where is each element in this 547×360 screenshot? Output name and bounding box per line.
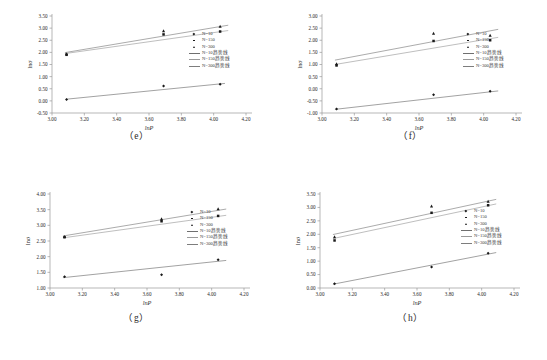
svg-text:lnσ: lnσ [296, 60, 303, 69]
legend-line-key [186, 237, 198, 238]
panel-caption-g: （g） [0, 310, 273, 324]
y-tick-label: 0.00 [309, 86, 318, 92]
data-point-square [430, 212, 433, 215]
y-tick-label: 3.00 [309, 13, 318, 19]
x-tick-label: 4.00 [479, 116, 488, 122]
y-tick-label: 3.50 [307, 191, 316, 197]
legend-marker-triangle-icon [193, 46, 195, 48]
legend-marker-key [186, 218, 198, 220]
plot-svg-h: 0.000.501.001.502.002.503.003.503.003.20… [274, 180, 547, 325]
y-tick-label: -1.00 [307, 110, 318, 116]
y-tick-label: 1.50 [307, 245, 316, 251]
legend-line-key [462, 66, 474, 67]
legend-line-key [460, 236, 472, 237]
y-tick-label: 1.50 [37, 269, 46, 275]
legend-item-label: N=300趋势线 [202, 62, 230, 71]
y-axis-label: lnσ [294, 236, 301, 245]
legend-e: N=10N=150N=300N=10趋势线N=150趋势线N=300趋势线 [188, 31, 230, 69]
chart-panel-e: -0.500.000.501.001.502.002.503.003.503.0… [0, 0, 273, 180]
x-tick-label: 3.20 [78, 291, 87, 297]
legend-marker-diamond-icon [465, 210, 467, 212]
y-tick-label: 2.00 [307, 231, 316, 237]
figure-sheet: -0.500.000.501.001.502.002.503.003.503.0… [0, 0, 547, 360]
legend-marker-key [462, 33, 474, 35]
y-tick-label: 0.50 [309, 74, 318, 80]
legend-marker-key [186, 224, 198, 226]
legend-line-swatch [463, 59, 474, 60]
plot-svg-e: -0.500.000.501.001.502.002.503.003.503.0… [0, 0, 273, 145]
legend-line-swatch [463, 53, 474, 54]
data-point-square [333, 239, 336, 242]
data-point-diamond [335, 108, 338, 111]
legend-marker-square-icon [193, 40, 195, 42]
data-point-triangle [430, 204, 433, 207]
y-tick-label: 2.50 [307, 218, 316, 224]
data-point-square [487, 204, 490, 207]
data-point-triangle [162, 29, 165, 32]
x-tick-label: 4.00 [207, 291, 216, 297]
data-point-diamond [333, 282, 336, 285]
legend-line-swatch [461, 243, 472, 244]
x-axis-label: lnP [143, 299, 152, 306]
y-tick-label: 4.00 [37, 191, 46, 197]
legend-marker-triangle-icon [191, 224, 193, 226]
x-tick-label: 4.20 [512, 116, 521, 122]
x-tick-label: 3.20 [350, 116, 359, 122]
y-axis-label: lnσ [26, 60, 33, 69]
y-tick-label: 2.00 [39, 49, 48, 55]
y-tick-label: 0.00 [307, 285, 316, 291]
panel-caption-e: （e） [0, 128, 273, 142]
legend-line-swatch [461, 236, 472, 237]
x-tick-label: 4.00 [477, 291, 486, 297]
x-tick-label: 3.80 [177, 116, 186, 122]
x-tick-label: 3.00 [48, 116, 57, 122]
legend-item: N=300趋势线 [462, 63, 504, 69]
y-tick-label: -0.50 [307, 98, 318, 104]
legend-line-key [460, 230, 472, 231]
legend-marker-square-icon [467, 40, 469, 42]
trendline [63, 260, 226, 277]
plot-area-e: -0.500.000.501.001.502.002.503.003.503.0… [0, 0, 273, 145]
data-point-triangle [432, 32, 435, 35]
legend-marker-key [462, 40, 474, 42]
legend-line-swatch [463, 66, 474, 67]
legend-h: N=10N=150N=300N=10趋势线N=150趋势线N=300趋势线 [460, 208, 502, 246]
legend-marker-diamond-icon [467, 33, 469, 35]
svg-text:lnσ: lnσ [26, 60, 33, 69]
x-tick-label: 3.40 [380, 291, 389, 297]
y-tick-label: 0.00 [39, 98, 48, 104]
legend-line-swatch [189, 53, 200, 54]
legend-line-key [186, 231, 198, 232]
panel-caption-h: （h） [274, 310, 547, 324]
legend-line-swatch [189, 66, 200, 67]
x-tick-label: 4.20 [242, 116, 251, 122]
y-tick-label: 3.50 [37, 207, 46, 213]
y-tick-label: 3.00 [307, 204, 316, 210]
legend-marker-key [460, 210, 472, 212]
x-tick-label: 3.20 [348, 291, 357, 297]
legend-marker-key [460, 223, 472, 225]
plot-svg-f: -1.00-0.500.000.501.001.502.002.503.003.… [274, 0, 547, 145]
data-point-diamond [430, 266, 433, 269]
x-tick-label: 3.00 [318, 116, 327, 122]
chart-panel-f: -1.00-0.500.000.501.001.502.002.503.003.… [274, 0, 547, 180]
x-tick-label: 3.80 [175, 291, 184, 297]
legend-line-swatch [187, 231, 198, 232]
legend-line-swatch [461, 230, 472, 231]
legend-line-swatch [189, 59, 200, 60]
data-point-triangle [160, 217, 163, 220]
trendline [333, 253, 496, 285]
legend-line-key [186, 244, 198, 245]
legend-line-key [462, 59, 474, 60]
x-tick-label: 4.00 [209, 116, 218, 122]
data-point-diamond [65, 98, 68, 101]
legend-item: N=300趋势线 [186, 241, 228, 247]
data-point-triangle [333, 235, 336, 238]
y-tick-label: 1.00 [39, 74, 48, 80]
legend-marker-key [188, 46, 200, 48]
x-tick-label: 3.40 [382, 116, 391, 122]
legend-g: N=10N=150N=300N=10趋势线N=150趋势线N=300趋势线 [186, 209, 228, 247]
legend-line-key [188, 66, 200, 67]
y-tick-label: 0.50 [307, 271, 316, 277]
chart-panel-g: 1.001.502.002.503.003.504.003.003.203.40… [0, 180, 273, 360]
